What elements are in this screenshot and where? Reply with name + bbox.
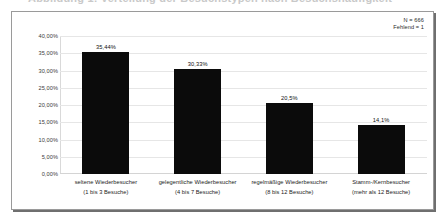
bar-value-label: 35,44% [96,44,116,50]
x-category-subtitle: (8 bis 12 Besuche) [246,188,334,198]
cut-off-heading: Abbildung 1: Verteilung der Besuchstypen… [0,0,446,9]
chart-figure-frame: N = 666 Fehlend = 1 40,00% 35,00% 30,00%… [11,11,434,210]
bar-value-label: 14,1% [373,117,390,123]
x-axis-labels: seltene Wiederbesucher (1 bis 3 Besuche)… [60,178,427,198]
bar-slot: 20,5% [244,36,336,174]
cut-off-heading-text: Abbildung 1: Verteilung der Besuchstypen… [28,0,392,4]
x-category-2: regelmäßige Wiederbesucher (8 bis 12 Bes… [244,178,336,198]
x-category-title: Stamm-/Kernbesucher [337,178,425,188]
y-axis: 40,00% 35,00% 30,00% 25,00% 20,00% 15,00… [17,36,58,174]
x-category-1: gelegentliche Wiederbesucher (4 bis 7 Be… [152,178,244,198]
bar-series: 35,44% 30,33% 20,5% 14,1% [60,36,427,174]
bar[interactable] [82,52,129,174]
grid-area: 35,44% 30,33% 20,5% 14,1% [60,36,427,174]
bar-value-label: 30,33% [188,61,208,67]
y-tick-label: 0,00% [42,171,58,177]
bar-slot: 14,1% [335,36,427,174]
x-category-title: seltene Wiederbesucher [62,178,150,188]
x-category-3: Stamm-/Kernbesucher (mehr als 12 Besuche… [335,178,427,198]
y-tick-label: 5,00% [42,154,58,160]
y-tick-label: 15,00% [38,119,58,125]
x-category-title: regelmäßige Wiederbesucher [246,178,334,188]
bar-slot: 35,44% [60,36,152,174]
x-category-0: seltene Wiederbesucher (1 bis 3 Besuche) [60,178,152,198]
y-tick-label: 30,00% [38,68,58,74]
bar-slot: 30,33% [152,36,244,174]
x-category-subtitle: (1 bis 3 Besuche) [62,188,150,198]
bar[interactable] [266,103,313,174]
y-tick-label: 25,00% [38,85,58,91]
y-tick-label: 10,00% [38,137,58,143]
x-category-title: gelegentliche Wiederbesucher [154,178,242,188]
plot-area: 40,00% 35,00% 30,00% 25,00% 20,00% 15,00… [12,12,433,209]
x-category-subtitle: (4 bis 7 Besuche) [154,188,242,198]
x-category-subtitle: (mehr als 12 Besuche) [337,188,425,198]
y-tick-label: 35,00% [38,50,58,56]
bar[interactable] [174,69,221,174]
y-tick-label: 20,00% [38,102,58,108]
bar-value-label: 20,5% [281,95,298,101]
y-tick-label: 40,00% [38,33,58,39]
bar[interactable] [358,125,405,174]
